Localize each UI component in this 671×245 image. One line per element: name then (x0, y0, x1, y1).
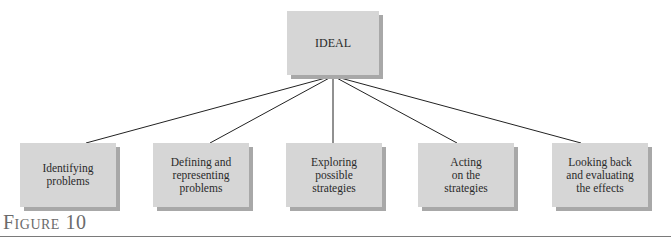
node-acting: Acting on the strategies (418, 143, 514, 207)
node-defining: Defining and representing problems (153, 143, 249, 207)
node-label: Identifying problems (42, 162, 93, 188)
node-identifying: Identifying problems (20, 143, 116, 207)
figure-caption: Figure 10 (3, 211, 86, 234)
node-exploring: Exploring possible strategies (286, 143, 382, 207)
node-label: Acting on the strategies (444, 156, 487, 195)
node-label: Defining and representing problems (171, 156, 231, 195)
root-node-ideal: IDEAL (287, 11, 379, 75)
root-node-label: IDEAL (315, 37, 351, 50)
node-looking-back: Looking back and evaluating the effects (552, 143, 648, 207)
node-label: Looking back and evaluating the effects (566, 156, 633, 195)
node-label: Exploring possible strategies (311, 156, 357, 195)
caption-rule (0, 236, 671, 237)
